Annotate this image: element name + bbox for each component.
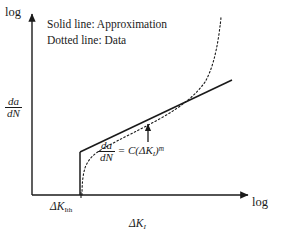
threshold-label: ΔKIth bbox=[50, 201, 72, 214]
paris-law-equation: da dN = C(ΔKI)m bbox=[98, 140, 164, 163]
equation-right-hand-side: = C(ΔKI)m bbox=[118, 145, 164, 158]
y-axis-quantity-label: da dN bbox=[5, 96, 22, 119]
equation-rhs-main: = C(ΔK bbox=[118, 144, 153, 156]
x-axis-scale-label: log bbox=[252, 196, 268, 209]
equation-rhs-exponent: m bbox=[159, 145, 164, 153]
x-axis-subscript: I bbox=[143, 223, 145, 231]
legend-item-dotted-line: Dotted line: Data bbox=[47, 33, 167, 49]
x-axis-quantity-label: ΔKI bbox=[129, 218, 146, 231]
threshold-symbol: ΔK bbox=[50, 200, 64, 212]
legend: Solid line: Approximation Dotted line: D… bbox=[47, 17, 167, 48]
y-axis-scale-label: log bbox=[5, 6, 21, 19]
legend-item-solid-line: Solid line: Approximation bbox=[47, 17, 167, 33]
da-dn-fraction: da dN bbox=[5, 96, 22, 119]
da-dn-denominator: dN bbox=[5, 108, 22, 119]
x-axis-symbol: ΔK bbox=[129, 217, 143, 229]
fatigue-crack-growth-figure: log log Solid line: Approximation Dotted… bbox=[0, 0, 286, 238]
threshold-subscript: Ith bbox=[64, 206, 72, 214]
equation-da-dn-fraction: da dN bbox=[98, 140, 115, 163]
equation-denominator: dN bbox=[98, 152, 115, 163]
